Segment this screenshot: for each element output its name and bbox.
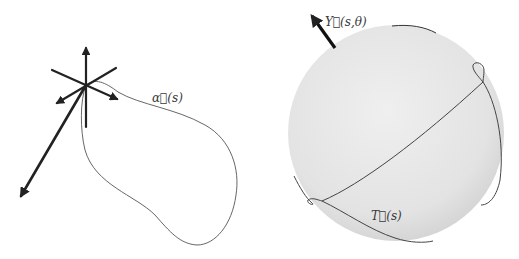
curve-label-alpha: α⃗(s) (152, 91, 183, 105)
left-panel: α⃗(s) (21, 48, 237, 245)
frame-star-icon (21, 48, 117, 196)
space-curve (81, 81, 237, 245)
figure-canvas: α⃗(s) Y⃗(s,θ) T⃗(s) (0, 0, 519, 259)
right-panel: Y⃗(s,θ) T⃗(s) (288, 15, 504, 242)
curve-label-t: T⃗(s) (371, 209, 402, 223)
vector-label-y: Y⃗(s,θ) (325, 15, 367, 29)
